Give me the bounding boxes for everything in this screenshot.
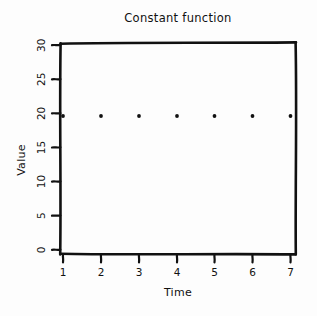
- y-tick-label-5: 5: [35, 212, 47, 219]
- x-tick-label-6: 6: [249, 266, 256, 278]
- x-tick-label-1: 1: [60, 266, 67, 278]
- chart-title: Constant function: [124, 11, 231, 25]
- data-point: [61, 114, 65, 118]
- axis-spine-top: [61, 42, 297, 43]
- x-tick-label-2: 2: [98, 266, 105, 278]
- x-axis-title: Time: [163, 286, 192, 299]
- chart-figure: 30 25 20 15 10 5 0 1 2 3 4 5 6 7: [0, 0, 317, 316]
- y-tick-label-0: 0: [35, 246, 47, 253]
- figure-background: [0, 0, 317, 316]
- data-point: [213, 114, 217, 118]
- chart-canvas: 30 25 20 15 10 5 0 1 2 3 4 5 6 7: [0, 0, 317, 316]
- x-tick-label-3: 3: [136, 266, 143, 278]
- data-point: [289, 114, 293, 118]
- data-point: [251, 114, 255, 118]
- data-point: [137, 114, 141, 118]
- x-tick-label-5: 5: [211, 266, 218, 278]
- axis-spine-right: [296, 42, 297, 254]
- y-tick-label-10: 10: [35, 175, 47, 188]
- y-tick-label-20: 20: [35, 107, 47, 120]
- y-tick-label-30: 30: [35, 39, 47, 52]
- x-tick-label-7: 7: [287, 266, 294, 278]
- data-point: [99, 114, 103, 118]
- y-axis-title: Value: [15, 144, 28, 176]
- y-tick-label-15: 15: [35, 141, 47, 154]
- y-tick-label-25: 25: [35, 73, 47, 86]
- x-tick-label-4: 4: [174, 266, 181, 278]
- data-point: [175, 114, 179, 118]
